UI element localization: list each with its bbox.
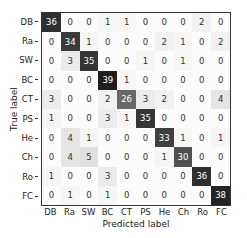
matrix-cell: 0 [155,13,174,32]
matrix-cell: 1 [136,51,155,70]
y-tick-label: SW [19,51,38,70]
matrix-cell: 0 [211,147,230,166]
matrix-cell: 3 [98,109,117,128]
matrix-cell: 0 [117,186,136,205]
matrix-cell: 4 [61,147,80,166]
matrix-cell: 2 [192,13,211,32]
x-tick-label: BC [98,207,117,217]
matrix-cell: 0 [42,71,61,90]
matrix-cell: 0 [98,147,117,166]
matrix-cell: 4 [61,128,80,147]
matrix-cell: 0 [42,186,61,205]
matrix-cell: 0 [192,32,211,51]
matrix-cell: 0 [211,167,230,186]
matrix-cell: 1 [174,128,193,147]
matrix-cell: 0 [174,109,193,128]
y-tick-label: Ro [22,167,38,186]
matrix-cell: 0 [80,167,99,186]
matrix-cell: 4 [211,90,230,109]
matrix-cell: 0 [174,71,193,90]
x-tick-label: CT [117,207,136,217]
matrix-cell: 3 [98,167,117,186]
matrix-cell: 0 [192,147,211,166]
matrix-cell: 0 [174,167,193,186]
matrix-cell: 2 [211,32,230,51]
matrix-cell: 1 [174,51,193,70]
y-tick-label: FC [22,187,38,206]
y-tick-label: CT [22,90,38,109]
matrix-cell: 0 [155,71,174,90]
matrix-cell: 0 [98,128,117,147]
matrix-cell: 0 [136,186,155,205]
matrix-cell: 0 [136,32,155,51]
matrix-cell: 2 [155,90,174,109]
matrix-cell: 0 [136,147,155,166]
matrix-cell: 0 [136,167,155,186]
matrix-cell: 36 [192,167,211,186]
matrix-cell: 0 [192,90,211,109]
x-tick-label: DB [41,207,60,217]
matrix-cell: 0 [174,90,193,109]
y-tick-label: Ra [22,31,38,50]
matrix-cell: 1 [98,186,117,205]
y-tick-label: Ch [22,148,38,167]
matrix-cell: 0 [42,128,61,147]
matrix-cell: 34 [61,32,80,51]
matrix-cell: 0 [155,167,174,186]
matrix-cell: 0 [155,109,174,128]
matrix-cell: 0 [192,128,211,147]
matrix-cell: 0 [192,109,211,128]
matrix-cell: 0 [80,90,99,109]
matrix-cell: 0 [42,51,61,70]
matrix-cell: 0 [136,128,155,147]
matrix-cell: 0 [61,167,80,186]
matrix-cell: 2 [98,90,117,109]
matrix-cell: 0 [211,13,230,32]
matrix-cell: 0 [117,167,136,186]
matrix-cell: 26 [117,90,136,109]
matrix-cell: 0 [155,186,174,205]
matrix-cell: 2 [155,32,174,51]
matrix-cell: 3 [42,90,61,109]
matrix-cell: 38 [211,186,230,205]
matrix-cell: 0 [117,32,136,51]
matrix-cell: 0 [80,13,99,32]
plot-area: 3600110002003410002102033500101000003910… [41,12,231,206]
matrix-cell: 0 [174,13,193,32]
matrix-cell: 0 [192,186,211,205]
matrix-cell: 1 [42,109,61,128]
x-tick-label: Ra [60,207,79,217]
matrix-cell: 1 [155,147,174,166]
matrix-cell: 0 [80,186,99,205]
matrix-cell: 1 [80,32,99,51]
matrix-cell: 30 [174,147,193,166]
matrix-cell: 36 [42,13,61,32]
x-tick-label: Ch [174,207,193,217]
matrix-cell: 35 [80,51,99,70]
matrix-cell: 1 [42,167,61,186]
matrix-cell: 0 [192,71,211,90]
matrix-cell: 1 [174,32,193,51]
matrix-cell: 0 [80,71,99,90]
matrix-cell: 0 [42,147,61,166]
matrix-cell: 0 [174,186,193,205]
matrix-cell: 0 [61,13,80,32]
matrix-cell: 0 [155,51,174,70]
x-tick-label: He [155,207,174,217]
matrix-cell: 0 [117,147,136,166]
y-tick-label: PS [22,109,38,128]
matrix-cell: 0 [42,32,61,51]
matrix-cell: 0 [211,51,230,70]
matrix-cell: 39 [98,71,117,90]
matrix-cell: 3 [136,90,155,109]
matrix-cell: 0 [61,109,80,128]
matrix-cell: 1 [211,128,230,147]
matrix-cell: 5 [80,147,99,166]
x-tick-label: SW [79,207,98,217]
matrix-cell: 0 [98,32,117,51]
matrix-cell: 0 [136,71,155,90]
matrix-cell: 0 [136,13,155,32]
matrix-cell: 0 [117,128,136,147]
matrix-cell: 3 [61,51,80,70]
matrix-cell: 1 [61,186,80,205]
